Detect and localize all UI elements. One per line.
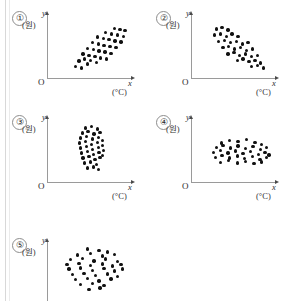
- data-point: [98, 156, 101, 159]
- data-point: [95, 163, 98, 166]
- y-axis-symbol-4: y: [186, 112, 190, 122]
- data-point: [257, 153, 260, 156]
- x-axis-unit-1: (°C): [112, 87, 127, 97]
- data-point: [246, 41, 249, 44]
- data-point: [65, 263, 68, 266]
- data-point: [253, 59, 256, 62]
- data-point: [101, 262, 104, 265]
- data-point: [251, 47, 254, 50]
- origin-label-4: O: [182, 181, 189, 191]
- data-point: [106, 272, 109, 275]
- y-axis-unit-4: (원): [166, 122, 180, 134]
- data-point: [67, 267, 70, 270]
- data-point: [81, 131, 84, 134]
- data-point: [93, 158, 96, 161]
- data-point: [86, 62, 89, 65]
- data-point: [86, 130, 89, 133]
- x-axis-line-3: [47, 182, 131, 183]
- data-point: [225, 35, 228, 38]
- data-point: [77, 262, 80, 265]
- data-point: [96, 35, 99, 38]
- data-point: [119, 40, 122, 43]
- data-point: [83, 161, 86, 164]
- data-point: [77, 59, 80, 62]
- data-point: [110, 32, 113, 35]
- data-point: [81, 52, 84, 55]
- data-point: [86, 47, 89, 50]
- data-point: [219, 149, 222, 152]
- data-point: [256, 54, 259, 57]
- data-point: [82, 272, 85, 275]
- data-point: [91, 41, 94, 44]
- data-point: [213, 33, 216, 36]
- data-point: [97, 151, 100, 154]
- data-point: [114, 46, 117, 49]
- data-point: [239, 46, 242, 49]
- data-point: [244, 160, 247, 163]
- data-point: [256, 64, 259, 67]
- data-point: [252, 162, 255, 165]
- data-point: [113, 27, 116, 30]
- data-point: [116, 275, 119, 278]
- data-point: [122, 35, 125, 38]
- data-point: [92, 132, 95, 135]
- x-axis-symbol-1: x: [128, 78, 132, 88]
- data-point: [83, 57, 86, 60]
- data-point: [265, 156, 268, 159]
- data-point: [87, 155, 90, 158]
- data-point: [259, 61, 262, 64]
- data-point: [93, 55, 96, 58]
- data-point: [76, 253, 79, 256]
- data-point: [118, 28, 121, 31]
- data-point: [227, 159, 230, 162]
- data-point: [244, 52, 247, 55]
- data-point: [101, 144, 104, 147]
- data-point: [106, 250, 109, 253]
- data-point: [244, 147, 247, 150]
- data-point: [245, 138, 248, 141]
- origin-label-3: O: [38, 181, 45, 191]
- data-point: [253, 141, 256, 144]
- data-point: [87, 54, 90, 57]
- data-point: [251, 155, 254, 158]
- data-point: [123, 29, 126, 32]
- data-point: [236, 35, 239, 38]
- scatter-panel-2: ② y (원) O x (°C): [144, 0, 288, 100]
- data-point: [214, 156, 217, 159]
- data-point: [89, 264, 92, 267]
- data-point: [232, 51, 235, 54]
- data-point: [92, 48, 95, 51]
- scatter-plot-area-5: [47, 242, 131, 301]
- y-axis-unit-5: (원): [22, 245, 36, 257]
- data-point: [84, 140, 87, 143]
- y-axis-unit-3: (원): [22, 122, 36, 134]
- data-point: [241, 152, 244, 155]
- data-point: [223, 39, 226, 42]
- scatter-panel-1: ① y (원) O x (°C): [0, 0, 144, 100]
- data-point: [103, 50, 106, 53]
- data-point: [99, 56, 102, 59]
- data-point: [98, 131, 101, 134]
- x-axis-unit-2: (°C): [256, 87, 271, 97]
- data-point: [84, 126, 87, 129]
- x-axis-symbol-2: x: [272, 78, 276, 88]
- data-point: [265, 146, 268, 149]
- data-point: [90, 143, 93, 146]
- data-point: [250, 65, 253, 68]
- data-point: [219, 161, 222, 164]
- x-axis-line-4: [191, 182, 275, 183]
- data-point: [236, 59, 239, 62]
- data-point: [86, 247, 89, 250]
- data-point: [97, 42, 100, 45]
- data-point: [91, 269, 94, 272]
- origin-label-1: O: [38, 77, 45, 87]
- data-point: [69, 258, 72, 261]
- data-point: [92, 153, 95, 156]
- data-point: [107, 38, 110, 41]
- data-point: [74, 278, 77, 281]
- data-point: [92, 165, 95, 168]
- data-point: [94, 274, 97, 277]
- data-point: [212, 151, 215, 154]
- data-point: [101, 139, 104, 142]
- data-point: [90, 125, 93, 128]
